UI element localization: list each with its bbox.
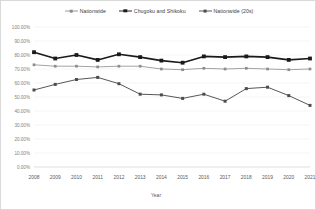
data-point-marker[interactable] [33, 63, 36, 66]
data-point-marker[interactable] [245, 67, 248, 70]
data-point-marker[interactable] [202, 55, 206, 59]
x-axis-tick-label: 2018 [241, 175, 252, 180]
data-point-marker[interactable] [160, 68, 163, 71]
data-point-marker[interactable] [138, 55, 142, 59]
y-axis-tick-label: 30.00% [14, 123, 30, 128]
data-point-marker[interactable] [159, 59, 163, 63]
data-point-marker[interactable] [181, 68, 184, 71]
y-axis-tick-label: 50.00% [14, 95, 30, 100]
y-axis-tick-label: 20.00% [14, 137, 30, 142]
data-point-marker[interactable] [266, 68, 269, 71]
data-point-marker[interactable] [54, 83, 57, 86]
data-point-marker[interactable] [96, 66, 99, 69]
y-axis-tick-label: 40.00% [14, 109, 30, 114]
data-point-marker[interactable] [139, 93, 142, 96]
x-axis-title: Year [151, 192, 161, 198]
data-point-marker[interactable] [287, 94, 290, 97]
data-point-marker[interactable] [223, 55, 227, 59]
x-axis-tick-label: 2019 [262, 175, 273, 180]
x-axis-tick-labels: 2008200920102011201220132014201520162017… [29, 175, 316, 180]
series-line [34, 77, 310, 105]
series-nationwide-20s [33, 76, 312, 107]
chart-card: Nationwide Chugoku and Shikoku Nationwid… [0, 0, 316, 210]
data-point-marker[interactable] [139, 65, 142, 68]
data-point-marker[interactable] [118, 65, 121, 68]
x-axis-tick-label: 2010 [71, 175, 82, 180]
series-nationwide [33, 63, 312, 71]
data-point-marker[interactable] [244, 55, 248, 59]
data-point-marker[interactable] [266, 86, 269, 89]
data-point-marker[interactable] [224, 68, 227, 71]
data-point-marker[interactable] [309, 104, 312, 107]
data-point-marker[interactable] [96, 58, 100, 62]
y-axis-tick-labels: 0.00%10.00%20.00%30.00%40.00%50.00%60.00… [12, 25, 30, 170]
data-point-marker[interactable] [181, 61, 185, 65]
data-point-marker[interactable] [181, 97, 184, 100]
y-axis-tick-label: 60.00% [14, 81, 30, 86]
x-axis-tick-label: 2009 [50, 175, 61, 180]
y-axis-tick-label: 10.00% [14, 151, 30, 156]
x-axis-tick-label: 2021 [305, 175, 316, 180]
y-axis-tick-label: 0.00% [17, 165, 30, 170]
x-axis-tick-label: 2011 [92, 175, 103, 180]
data-point-marker[interactable] [75, 53, 79, 57]
data-point-marker[interactable] [202, 93, 205, 96]
plot-area: 0.00%10.00%20.00%30.00%40.00%50.00%60.00… [1, 1, 316, 210]
data-point-marker[interactable] [54, 65, 57, 68]
x-axis-tick-label: 2012 [113, 175, 124, 180]
x-axis-tick-label: 2015 [177, 175, 188, 180]
series-layer [32, 50, 312, 107]
data-point-marker[interactable] [287, 58, 291, 62]
data-point-marker[interactable] [96, 76, 99, 79]
x-axis-tick-label: 2016 [198, 175, 209, 180]
plot-svg: 0.00%10.00%20.00%30.00%40.00%50.00%60.00… [1, 1, 316, 210]
y-axis-tick-label: 90.00% [14, 39, 30, 44]
data-point-marker[interactable] [308, 57, 312, 61]
x-axis-tick-label: 2013 [135, 175, 146, 180]
data-point-marker[interactable] [33, 89, 36, 92]
data-point-marker[interactable] [32, 50, 36, 54]
data-point-marker[interactable] [117, 52, 121, 56]
data-point-marker[interactable] [287, 68, 290, 71]
x-axis-tick-label: 2008 [29, 175, 40, 180]
data-point-marker[interactable] [203, 67, 206, 70]
data-point-marker[interactable] [224, 100, 227, 103]
data-point-marker[interactable] [75, 65, 78, 68]
data-point-marker[interactable] [245, 87, 248, 90]
data-point-marker[interactable] [75, 78, 78, 81]
y-axis-tick-label: 100.00% [12, 25, 30, 30]
data-point-marker[interactable] [266, 55, 270, 59]
x-axis-tick-label: 2017 [220, 175, 231, 180]
series-chugoku-and-shikoku [32, 50, 312, 64]
data-point-marker[interactable] [309, 68, 312, 71]
x-axis-tick-label: 2020 [283, 175, 294, 180]
y-axis-tick-label: 70.00% [14, 67, 30, 72]
x-axis-tick-label: 2014 [156, 175, 167, 180]
data-point-marker[interactable] [53, 57, 57, 61]
y-axis-tick-label: 80.00% [14, 53, 30, 58]
data-point-marker[interactable] [160, 93, 163, 96]
data-point-marker[interactable] [117, 82, 120, 85]
